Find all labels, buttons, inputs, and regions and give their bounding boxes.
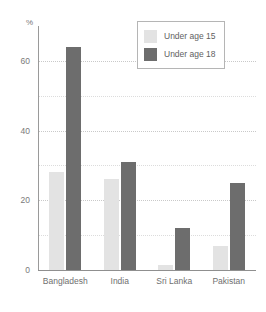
x-tick-label: India [111, 276, 129, 286]
bar-group [104, 26, 136, 270]
bar [66, 47, 81, 270]
bar [121, 162, 136, 270]
x-tick-label: Bangladesh [43, 276, 88, 286]
legend-label-under-age-15: Under age 15 [164, 31, 216, 41]
legend-item-under-age-15: Under age 15 [144, 27, 219, 45]
legend-item-under-age-18: Under age 18 [144, 45, 219, 63]
y-tick-label-0: 0 [4, 265, 30, 275]
legend: Under age 15 Under age 18 [137, 21, 225, 69]
bar [230, 183, 245, 270]
legend-swatch-icon-under-age-18 [144, 48, 157, 61]
y-axis-unit-label: % [26, 18, 33, 27]
legend-swatch-icon-under-age-15 [144, 30, 157, 43]
legend-label-under-age-18: Under age 18 [164, 49, 216, 59]
y-tick-label-60: 60 [4, 56, 30, 66]
bar [104, 179, 119, 270]
y-tick-label-20: 20 [4, 195, 30, 205]
bar [175, 228, 190, 270]
bar [213, 246, 228, 270]
bar [49, 172, 64, 270]
x-tick-label: Pakistan [212, 276, 245, 286]
x-axis-line [38, 270, 256, 271]
x-tick-label: Sri Lanka [156, 276, 192, 286]
y-axis-line [38, 26, 39, 270]
bar-group [49, 26, 81, 270]
bar-chart: % 0204060 BangladeshIndiaSri LankaPakist… [0, 0, 266, 312]
y-tick-label-40: 40 [4, 126, 30, 136]
